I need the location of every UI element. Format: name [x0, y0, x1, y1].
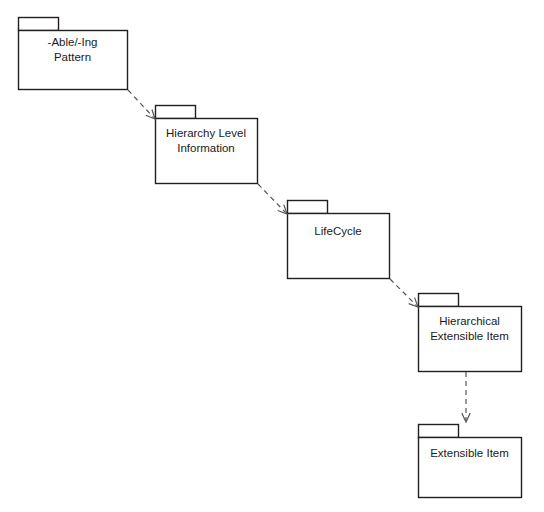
package-tab-extensible-item	[419, 425, 459, 438]
packages-layer	[19, 18, 522, 498]
package-body-hierarchy-level-information	[156, 119, 258, 184]
package-body-able-ing-pattern	[19, 31, 128, 90]
dependency-line-dep-hierarchy-level-to-lifecycle	[258, 184, 286, 213]
package-body-hierarchical-extensible-item	[419, 307, 522, 372]
dependency-dep-hierarchical-extensible-to-extensible[interactable]	[462, 372, 470, 422]
package-tab-lifecycle	[288, 201, 328, 214]
package-tab-hierarchy-level-information	[156, 106, 196, 119]
package-shape-hierarchy-level-information[interactable]	[156, 106, 258, 184]
dependency-dep-hierarchy-level-to-lifecycle[interactable]	[258, 184, 287, 214]
package-tab-able-ing-pattern	[19, 18, 59, 31]
dependency-dep-lifecycle-to-hierarchical-extensible[interactable]	[390, 279, 418, 307]
package-shape-hierarchical-extensible-item[interactable]	[419, 294, 522, 372]
package-body-lifecycle	[288, 214, 390, 279]
dependency-line-dep-able-ing-to-hierarchy-level	[128, 90, 154, 118]
package-body-extensible-item	[419, 438, 522, 498]
package-shape-extensible-item[interactable]	[419, 425, 522, 498]
package-shape-able-ing-pattern[interactable]	[19, 18, 128, 90]
dependency-line-dep-lifecycle-to-hierarchical-extensible	[390, 279, 417, 306]
package-diagram-canvas: -Able/-Ing PatternHierarchy Level Inform…	[0, 0, 544, 512]
dependency-dep-able-ing-to-hierarchy-level[interactable]	[128, 90, 155, 119]
diagram-vector-layer	[0, 0, 544, 512]
package-shape-lifecycle[interactable]	[288, 201, 390, 279]
package-tab-hierarchical-extensible-item	[419, 294, 459, 307]
